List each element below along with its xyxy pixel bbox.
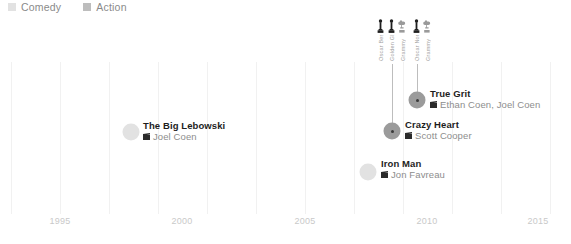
film-title: Crazy Heart	[405, 119, 472, 130]
label-true-grit: True Grit Ethan Coen, Joel Coen	[430, 88, 540, 110]
bubble-core	[416, 99, 419, 102]
gridline	[109, 62, 110, 214]
award-label: Grammy	[400, 35, 406, 61]
square-swatch-icon	[8, 3, 16, 11]
legend: Comedy Action	[8, 2, 127, 13]
gridline	[501, 62, 502, 214]
film-director: Ethan Coen, Joel Coen	[440, 99, 540, 110]
film-director: Joel Coen	[153, 131, 197, 142]
legend-item-action[interactable]: Action	[83, 2, 126, 13]
axis-tick-2000: 2000	[171, 216, 192, 226]
oscar-trophy-icon	[412, 19, 421, 34]
gridline	[11, 62, 12, 214]
award-label: Golden Globe	[389, 35, 395, 61]
gridline	[60, 62, 61, 214]
gridline	[354, 62, 355, 214]
gridline	[550, 62, 551, 214]
legend-item-comedy[interactable]: Comedy	[8, 2, 61, 13]
film-director: Scott Cooper	[415, 130, 472, 141]
oscar-trophy-icon	[387, 19, 396, 34]
bubble-crazy-heart[interactable]	[384, 123, 401, 140]
clapper-icon	[381, 171, 388, 178]
film-director: Jon Favreau	[391, 169, 445, 180]
grammy-trophy-icon	[423, 19, 432, 34]
axis-tick-2010: 2010	[416, 216, 437, 226]
axis-tick-2015: 2015	[527, 216, 548, 226]
square-swatch-icon	[83, 3, 91, 11]
oscar-trophy-icon	[376, 19, 385, 34]
award-marker[interactable]: Grammy	[398, 19, 407, 61]
clapper-icon	[405, 132, 412, 139]
timeline-chart: Comedy Action 1995 2000 2005 2010 2015	[0, 0, 571, 244]
award-label: Oscar Best Actor	[378, 35, 384, 61]
film-title: True Grit	[430, 88, 540, 99]
award-stem-crazy-heart	[392, 64, 393, 130]
bubble-iron-man[interactable]	[360, 164, 377, 181]
award-marker[interactable]: Grammy	[423, 19, 432, 61]
gridline	[305, 62, 306, 214]
bubble-true-grit[interactable]	[409, 92, 426, 109]
legend-label-action: Action	[96, 2, 126, 13]
axis-tick-1995: 1995	[49, 216, 70, 226]
clapper-icon	[143, 133, 150, 140]
gridline	[403, 62, 404, 214]
award-marker[interactable]: Oscar Best Actor	[376, 19, 385, 61]
label-crazy-heart: Crazy Heart Scott Cooper	[405, 119, 472, 141]
legend-label-comedy: Comedy	[21, 2, 61, 13]
film-title: The Big Lebowski	[143, 120, 225, 131]
award-label: Grammy	[425, 35, 431, 61]
label-the-big-lebowski: The Big Lebowski Joel Coen	[143, 120, 225, 142]
award-marker[interactable]: Oscar Nominee	[412, 19, 421, 61]
award-marker[interactable]: Golden Globe	[387, 19, 396, 61]
label-iron-man: Iron Man Jon Favreau	[381, 158, 445, 180]
clapper-icon	[430, 101, 437, 108]
gridline	[256, 62, 257, 214]
award-label: Oscar Nominee	[414, 35, 420, 61]
bubble-the-big-lebowski[interactable]	[123, 124, 140, 141]
award-group-true-grit: Oscar Nominee Grammy	[412, 19, 432, 61]
grammy-trophy-icon	[398, 19, 407, 34]
axis-tick-2005: 2005	[294, 216, 315, 226]
award-group-crazy-heart: Oscar Best Actor Golden Globe Grammy	[376, 19, 407, 61]
bubble-core	[391, 130, 394, 133]
film-title: Iron Man	[381, 158, 445, 169]
